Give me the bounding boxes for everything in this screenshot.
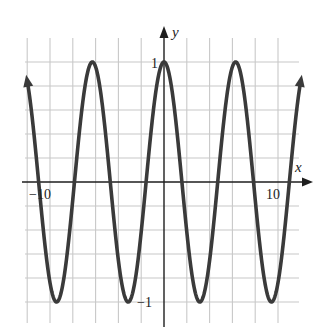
cosine-graph: x y −10 10 1 −1 bbox=[0, 0, 330, 329]
y-axis-label: y bbox=[170, 24, 179, 40]
grid bbox=[25, 38, 299, 323]
y-tick-label-1: 1 bbox=[151, 56, 158, 71]
y-axis-arrow-icon bbox=[160, 26, 169, 38]
x-axis-label: x bbox=[294, 159, 302, 175]
x-tick-label-neg10: −10 bbox=[29, 187, 51, 202]
x-axis-arrow-icon bbox=[302, 178, 313, 187]
x-tick-label-10: 10 bbox=[266, 187, 280, 202]
curve-left-arrow-icon bbox=[23, 75, 33, 88]
curve-right-arrow-icon bbox=[295, 75, 305, 88]
y-tick-label-neg1: −1 bbox=[137, 295, 152, 310]
